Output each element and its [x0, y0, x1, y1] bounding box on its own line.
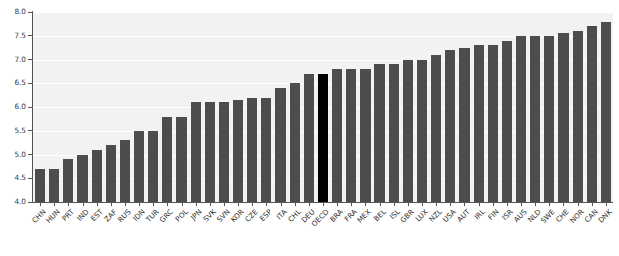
bar — [346, 69, 356, 202]
bar — [516, 36, 526, 202]
y-axis-tick-label: 4.0 — [2, 198, 26, 205]
bar — [587, 26, 597, 202]
bar — [488, 45, 498, 202]
x-axis-tick-mark — [394, 203, 395, 206]
bar — [417, 60, 427, 203]
x-axis-tick-mark — [563, 203, 564, 206]
bar — [106, 145, 116, 202]
y-axis-tick-mark — [28, 107, 33, 108]
x-axis-tick-mark — [408, 203, 409, 206]
y-axis-tick-mark — [28, 202, 33, 203]
x-axis-tick-mark — [266, 203, 267, 206]
y-axis-tick-mark — [28, 35, 33, 36]
bar — [77, 155, 87, 203]
x-axis-tick-mark — [111, 203, 112, 206]
bar — [92, 150, 102, 202]
x-axis-tick-mark — [40, 203, 41, 206]
bar — [261, 98, 271, 203]
x-axis-tick-mark — [351, 203, 352, 206]
bar — [219, 102, 229, 202]
x-axis-tick-mark — [578, 203, 579, 206]
bar — [431, 55, 441, 202]
x-axis-tick-mark — [224, 203, 225, 206]
x-axis-tick-mark — [125, 203, 126, 206]
x-axis-tick-mark — [139, 203, 140, 206]
x-axis-tick-mark — [309, 203, 310, 206]
bar — [63, 159, 73, 202]
bar — [35, 169, 45, 202]
y-axis-tick-label: 7.5 — [2, 32, 26, 39]
x-axis-tick-mark — [535, 203, 536, 206]
x-axis-tick-mark — [521, 203, 522, 206]
chart-figure: 4.04.55.05.56.06.57.07.58.0 CHNHUNPRTIND… — [0, 0, 619, 256]
x-axis-tick-mark — [507, 203, 508, 206]
y-axis-tick-label: 6.0 — [2, 103, 26, 110]
y-axis-tick-label: 5.5 — [2, 127, 26, 134]
bar — [558, 33, 568, 202]
x-axis-tick-mark — [83, 203, 84, 206]
x-axis-tick-mark — [549, 203, 550, 206]
x-axis-tick-mark — [365, 203, 366, 206]
bar — [120, 140, 130, 202]
y-axis-tick-mark — [28, 154, 33, 155]
bar — [176, 117, 186, 203]
bar — [601, 22, 611, 203]
bar — [191, 102, 201, 202]
x-axis-tick-mark — [210, 203, 211, 206]
x-axis-tick-mark — [97, 203, 98, 206]
bar — [162, 117, 172, 203]
bar — [360, 69, 370, 202]
x-axis-tick-mark — [323, 203, 324, 206]
y-axis-tick-label: 8.0 — [2, 8, 26, 15]
x-axis-tick-mark — [592, 203, 593, 206]
bar — [290, 83, 300, 202]
y-axis-tick-label: 4.5 — [2, 174, 26, 181]
bar — [148, 131, 158, 202]
gridline — [33, 12, 613, 13]
x-axis-tick-mark — [54, 203, 55, 206]
y-axis-tick-label: 7.0 — [2, 56, 26, 63]
bar — [530, 36, 540, 202]
x-axis-tick-mark — [252, 203, 253, 206]
bar — [403, 60, 413, 203]
bar — [573, 31, 583, 202]
bar — [445, 50, 455, 202]
x-axis-tick-mark — [182, 203, 183, 206]
x-axis-tick-mark — [436, 203, 437, 206]
x-axis-tick-mark — [167, 203, 168, 206]
y-axis-tick-mark — [28, 59, 33, 60]
bar — [49, 169, 59, 202]
bar — [304, 74, 314, 202]
x-axis-tick-mark — [196, 203, 197, 206]
bar — [389, 64, 399, 202]
y-axis-tick-mark — [28, 12, 33, 13]
y-axis-tick-mark — [28, 83, 33, 84]
y-axis-tick-mark — [28, 178, 33, 179]
x-axis-tick-mark — [479, 203, 480, 206]
x-axis-tick-mark — [68, 203, 69, 206]
y-axis-tick-label: 5.0 — [2, 151, 26, 158]
bar — [459, 48, 469, 202]
bar — [374, 64, 384, 202]
x-axis-tick-mark — [153, 203, 154, 206]
bar — [247, 98, 257, 203]
bar — [275, 88, 285, 202]
bar — [474, 45, 484, 202]
x-axis-tick-mark — [606, 203, 607, 206]
x-axis-tick-mark — [337, 203, 338, 206]
x-axis-tick-mark — [450, 203, 451, 206]
bar — [233, 100, 243, 202]
bar — [318, 74, 328, 202]
bar — [544, 36, 554, 202]
x-axis-tick-mark — [238, 203, 239, 206]
x-axis-tick-mark — [422, 203, 423, 206]
x-axis-tick-mark — [295, 203, 296, 206]
x-axis-tick-mark — [464, 203, 465, 206]
y-axis-tick-label: 6.5 — [2, 79, 26, 86]
bar — [134, 131, 144, 202]
bar — [332, 69, 342, 202]
x-axis-tick-mark — [380, 203, 381, 206]
bar — [502, 41, 512, 203]
x-axis-tick-mark — [281, 203, 282, 206]
plot-area — [33, 12, 613, 202]
